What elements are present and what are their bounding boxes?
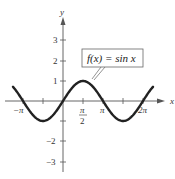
- x-axis-arrow-icon: [157, 99, 165, 104]
- x-tick-pi: π: [100, 105, 105, 115]
- function-label: f(x) = sin x: [87, 52, 136, 65]
- axes: [5, 17, 165, 172]
- y-tick-3: 3: [53, 35, 58, 45]
- x-tick-pi-over-2-num: π: [80, 105, 85, 115]
- y-tick-neg3: −3: [46, 157, 56, 167]
- y-tick-1: 1: [53, 76, 58, 86]
- y-tick-neg2: −2: [46, 136, 56, 146]
- y-tick-2: 2: [53, 56, 58, 66]
- x-axis-label: x: [169, 96, 174, 106]
- y-axis-arrow-icon: [61, 17, 66, 25]
- x-tick-pi-over-2-den: 2: [80, 116, 85, 126]
- sine-chart: x y 3 2 1 −2 −3 −π π 2 π 2π f(x) = sin x: [0, 0, 175, 179]
- x-tick-neg-pi: −π: [13, 105, 24, 115]
- y-axis-label: y: [59, 7, 64, 17]
